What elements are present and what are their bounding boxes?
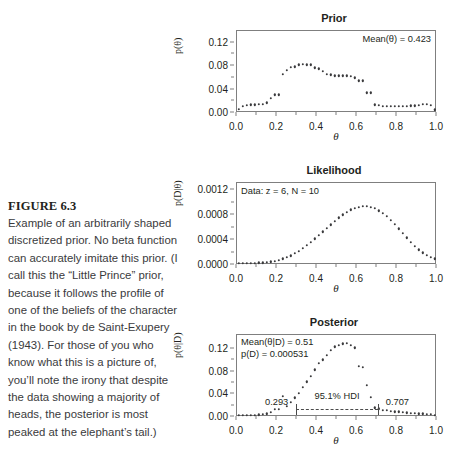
data-point <box>310 375 312 377</box>
data-point <box>270 261 272 263</box>
data-point <box>418 248 420 250</box>
data-point <box>306 380 308 382</box>
y-tick-mark <box>230 65 234 66</box>
posterior-panel: Posterior p(θ|D) 0.000.040.080.12 Mean(θ… <box>178 312 450 467</box>
likelihood-x-axis-label: θ <box>236 282 436 294</box>
data-point <box>386 409 388 411</box>
data-point <box>298 392 300 394</box>
data-point <box>266 102 268 104</box>
data-point <box>366 205 368 207</box>
data-point <box>414 412 416 414</box>
data-point <box>382 212 384 214</box>
figure-caption-text: Example of an arbitrarily shaped discret… <box>8 215 178 441</box>
prior-panel: Prior p(θ) 0.000.040.080.12 Mean(θ) = 0.… <box>178 8 450 156</box>
x-tick-mark <box>236 264 237 268</box>
data-point <box>258 103 260 105</box>
prior-plot-area: Mean(θ) = 0.423 <box>236 30 436 112</box>
data-point <box>246 104 248 106</box>
data-point <box>318 68 320 70</box>
y-tick-label: 0.08 <box>209 365 228 376</box>
y-tick-label: 0.0000 <box>197 259 228 270</box>
data-point <box>262 103 264 105</box>
hdi-level-label: 95.1% HDI <box>315 391 360 401</box>
x-tick-mark <box>276 264 277 268</box>
data-point <box>402 411 404 413</box>
y-tick-mark <box>230 41 234 42</box>
data-point <box>358 79 360 81</box>
y-tick-mark <box>230 189 234 190</box>
data-point <box>322 231 324 233</box>
x-minor-tick <box>296 112 297 115</box>
y-minor-tick <box>231 76 234 77</box>
data-point <box>350 209 352 211</box>
y-tick-mark <box>230 88 234 89</box>
data-point <box>426 413 428 415</box>
likelihood-panel: Likelihood p(D|θ) 0.00000.00040.00080.00… <box>178 160 450 308</box>
data-point <box>314 369 316 371</box>
y-tick-label: 0.0004 <box>197 234 228 245</box>
data-point <box>274 93 276 95</box>
y-minor-tick <box>231 226 234 227</box>
data-point <box>294 65 296 67</box>
data-point <box>398 411 400 413</box>
data-point <box>422 103 424 105</box>
x-minor-tick <box>336 264 337 267</box>
data-point <box>286 256 288 258</box>
data-point <box>370 206 372 208</box>
data-point <box>286 69 288 71</box>
data-point <box>298 64 300 66</box>
data-point <box>242 105 244 107</box>
y-tick-mark <box>230 370 234 371</box>
x-tick-mark <box>316 112 317 116</box>
y-tick-label: 0.12 <box>209 343 228 354</box>
data-point <box>342 214 344 216</box>
data-point <box>402 232 404 234</box>
x-tick-mark <box>396 112 397 116</box>
x-minor-tick <box>376 264 377 267</box>
data-point <box>290 66 292 68</box>
prior-y-axis: 0.000.040.080.12 <box>178 30 234 112</box>
x-minor-tick <box>416 264 417 267</box>
hdi-low-label: 0.293 <box>265 397 288 407</box>
x-minor-tick <box>376 112 377 115</box>
data-point <box>410 241 412 243</box>
prior-mean-annotation: Mean(θ) = 0.423 <box>363 34 431 44</box>
posterior-y-axis: 0.000.040.080.12 <box>178 334 234 416</box>
data-point <box>290 254 292 256</box>
data-point <box>310 64 312 66</box>
data-point <box>274 260 276 262</box>
x-tick-mark <box>396 264 397 268</box>
y-minor-tick <box>231 201 234 202</box>
data-point <box>398 105 400 107</box>
y-tick-mark <box>230 264 234 265</box>
data-point <box>274 408 276 410</box>
data-point <box>294 396 296 398</box>
data-point <box>298 250 300 252</box>
data-point <box>358 206 360 208</box>
data-point <box>390 219 392 221</box>
data-point <box>414 245 416 247</box>
x-tick-mark <box>356 112 357 116</box>
data-point <box>266 413 268 415</box>
y-minor-tick <box>231 404 234 405</box>
data-point <box>338 217 340 219</box>
data-point <box>374 207 376 209</box>
data-point <box>338 75 340 77</box>
data-point <box>374 103 376 105</box>
prior-x-axis-label: θ <box>236 130 436 142</box>
x-minor-tick <box>416 416 417 419</box>
data-point <box>362 366 364 368</box>
data-point <box>398 227 400 229</box>
x-minor-tick <box>376 416 377 419</box>
figure-number: FIGURE 6.3 <box>8 198 178 214</box>
data-point <box>278 259 280 261</box>
x-tick-mark <box>236 416 237 420</box>
y-minor-tick <box>231 359 234 360</box>
data-point <box>346 211 348 213</box>
data-point <box>302 247 304 249</box>
data-point <box>366 384 368 386</box>
data-point <box>378 209 380 211</box>
y-minor-tick <box>231 53 234 54</box>
posterior-plot-area: Mean(θ|D) = 0.51 p(D) = 0.000531 95.1% H… <box>236 334 436 416</box>
data-point <box>434 257 436 259</box>
